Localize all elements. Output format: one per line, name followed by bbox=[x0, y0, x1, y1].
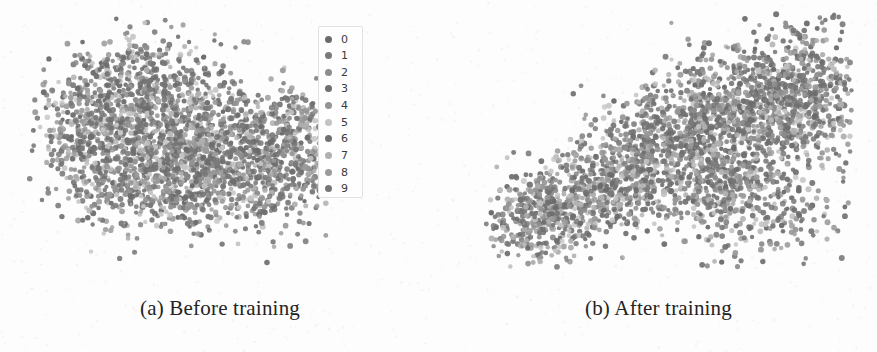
legend-item[interactable]: 7 bbox=[319, 148, 362, 164]
subfigure-caption-b: (b) After training bbox=[440, 296, 877, 321]
legend-item[interactable]: 3 bbox=[319, 81, 362, 97]
legend-item-label: 0 bbox=[341, 34, 348, 45]
legend-swatch-icon bbox=[325, 119, 332, 126]
scatter-plot-before-training bbox=[0, 0, 440, 290]
legend-item[interactable]: 6 bbox=[319, 131, 362, 147]
scatter-plot-after-training bbox=[440, 0, 877, 290]
legend-item-label: 5 bbox=[341, 117, 348, 128]
legend-item[interactable]: 8 bbox=[319, 164, 362, 180]
legend-swatch-icon bbox=[325, 52, 332, 59]
legend-swatch-icon bbox=[325, 85, 332, 92]
legend-swatch-icon bbox=[325, 102, 332, 109]
legend-swatch-icon bbox=[325, 69, 332, 76]
legend-item-label: 2 bbox=[341, 67, 348, 78]
legend-item-label: 7 bbox=[341, 150, 348, 161]
legend-item-label: 8 bbox=[341, 167, 348, 178]
legend-swatch-icon bbox=[325, 169, 332, 176]
legend-box: 0 1 2 3 4 5 6 bbox=[318, 26, 363, 198]
legend-item[interactable]: 9 bbox=[319, 181, 362, 197]
subfigure-caption-a: (a) Before training bbox=[0, 296, 440, 321]
figure-container: 0 1 2 3 4 5 6 bbox=[0, 0, 877, 352]
legend-item-label: 4 bbox=[341, 100, 348, 111]
legend-swatch-icon bbox=[325, 36, 332, 43]
legend-item-label: 3 bbox=[341, 83, 348, 94]
legend-item-label: 9 bbox=[341, 183, 348, 194]
legend-swatch-icon bbox=[325, 152, 332, 159]
legend-item[interactable]: 1 bbox=[319, 48, 362, 64]
legend-item[interactable]: 2 bbox=[319, 64, 362, 80]
legend-swatch-icon bbox=[325, 135, 332, 142]
legend-item-label: 1 bbox=[341, 50, 348, 61]
scatter-panel-before-training: 0 1 2 3 4 5 6 bbox=[0, 0, 440, 290]
legend-item[interactable]: 0 bbox=[319, 31, 362, 47]
legend-item-label: 6 bbox=[341, 133, 348, 144]
legend-item[interactable]: 5 bbox=[319, 114, 362, 130]
scatter-panel-after-training bbox=[440, 0, 877, 290]
legend-swatch-icon bbox=[325, 185, 332, 192]
legend-item[interactable]: 4 bbox=[319, 98, 362, 114]
